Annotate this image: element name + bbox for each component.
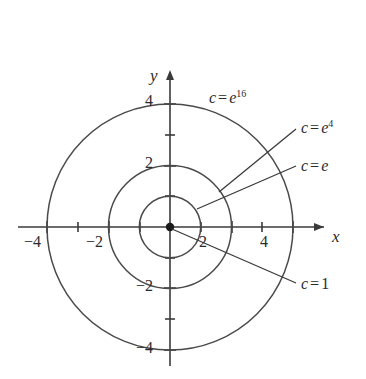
leader-line-c-1 (172, 229, 296, 283)
curve-label-c-1: c=1 (301, 276, 329, 292)
curve-label-c-e: c=e (301, 158, 328, 174)
curve-label-c-e16-exponent: 16 (236, 88, 246, 99)
curve-label-c-e-equals: = (308, 157, 321, 174)
curve-label-c-e4-equals: = (308, 119, 321, 136)
leader-line-c-e (197, 166, 296, 209)
curve-label-c-e16-equals: = (216, 89, 229, 106)
y-tick-label--2: −2 (136, 278, 153, 294)
y-axis-label: y (150, 67, 158, 84)
x-tick-label-2: 2 (199, 234, 207, 250)
y-tick-label-4: 4 (145, 93, 153, 109)
x-tick-label--4: −4 (24, 234, 41, 250)
x-tick-label-4: 4 (260, 234, 268, 250)
x-axis-arrowhead (314, 223, 324, 231)
x-axis-label: x (332, 228, 340, 245)
y-tick-label--4: −4 (136, 340, 153, 356)
axis-lines (18, 72, 324, 366)
leader-lines (172, 129, 296, 283)
curve-label-c-e4: c=e4 (301, 120, 333, 136)
y-tick-label-2: 2 (145, 155, 153, 171)
curve-label-c-e16: c=e16 (209, 90, 246, 106)
curve-label-c-1-equals: = (308, 275, 321, 292)
y-axis-arrowhead (166, 70, 174, 80)
curve-label-c-e4-exponent: 4 (328, 118, 333, 129)
plot-canvas (0, 0, 366, 379)
level-curve-figure: −4 −2 2 4 4 2 −2 −4 x y c=e16 c=e4 c=e c… (0, 0, 366, 379)
curve-label-c-1-value: 1 (321, 275, 329, 292)
curve-label-c-e-base: e (321, 157, 328, 174)
x-tick-label--2: −2 (86, 234, 103, 250)
